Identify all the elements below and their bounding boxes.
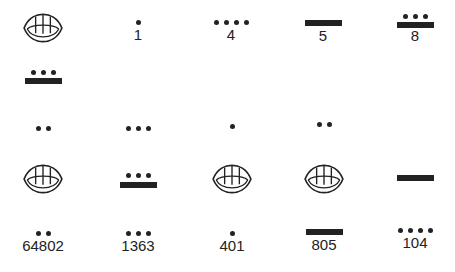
number-104-cell: 104 <box>375 228 455 251</box>
dots-group <box>36 231 51 236</box>
zero-shell-cell <box>192 164 272 194</box>
number-label: 64802 <box>22 238 64 254</box>
dot-icon <box>403 14 408 19</box>
dot-icon <box>214 20 219 25</box>
number-label: 4 <box>227 27 235 43</box>
zero-shell-cell <box>3 13 83 43</box>
number-label: 104 <box>402 235 427 251</box>
dot-icon <box>126 126 131 131</box>
level-two-cell <box>3 126 83 131</box>
dot-icon <box>317 122 322 127</box>
dot-icon <box>46 231 51 236</box>
dots-group <box>230 124 235 129</box>
dot-icon <box>136 20 141 25</box>
shell-zero-icon <box>22 13 64 43</box>
dot-icon <box>126 173 131 178</box>
numeral-eight-cell: 8 <box>375 14 455 44</box>
dot-icon <box>136 126 141 131</box>
dot-icon <box>136 231 141 236</box>
bar-icon <box>397 175 434 181</box>
number-401-cell: 401 <box>192 231 272 254</box>
dots-group <box>136 20 141 25</box>
level-eight-cell <box>3 70 83 84</box>
number-64802-cell: 64802 <box>3 231 83 254</box>
dot-icon <box>244 20 249 25</box>
number-label: 1363 <box>121 238 154 254</box>
dots-group <box>126 231 151 236</box>
dot-icon <box>36 231 41 236</box>
zero-shell-cell <box>3 164 83 194</box>
number-805-cell: 805 <box>284 229 364 253</box>
dot-icon <box>36 126 41 131</box>
dots-group <box>126 173 151 178</box>
dot-icon <box>327 122 332 127</box>
shell-zero-icon <box>22 164 64 194</box>
dot-icon <box>224 20 229 25</box>
dots-group <box>36 126 51 131</box>
dots-group <box>398 228 433 233</box>
dot-icon <box>136 173 141 178</box>
shell-zero-icon <box>211 164 253 194</box>
dot-icon <box>41 70 46 75</box>
dot-icon <box>230 124 235 129</box>
level-three-cell <box>98 126 178 131</box>
bar-icon <box>120 182 157 188</box>
level-one-cell <box>192 124 272 129</box>
number-label: 8 <box>411 28 419 44</box>
dot-icon <box>408 228 413 233</box>
numeral-one-cell: 1 <box>98 20 178 43</box>
dot-icon <box>51 70 56 75</box>
dots-group <box>317 122 332 127</box>
dot-icon <box>398 228 403 233</box>
dot-icon <box>146 231 151 236</box>
dots-group <box>230 231 235 236</box>
dot-icon <box>428 228 433 233</box>
number-label: 1 <box>134 27 142 43</box>
dot-icon <box>31 70 36 75</box>
dots-group <box>126 126 151 131</box>
dots-group <box>31 70 56 75</box>
dots-group <box>214 20 249 25</box>
number-label: 805 <box>311 237 336 253</box>
dots-group <box>403 14 428 19</box>
shell-zero-icon <box>303 164 345 194</box>
dot-icon <box>46 126 51 131</box>
dot-icon <box>230 231 235 236</box>
bar-icon <box>305 20 342 26</box>
dot-icon <box>146 126 151 131</box>
numeral-four-cell: 4 <box>191 20 271 43</box>
bar-icon <box>306 229 343 235</box>
level-five-cell <box>375 175 455 181</box>
dot-icon <box>234 20 239 25</box>
dot-icon <box>413 14 418 19</box>
level-two-cell <box>284 122 364 127</box>
dot-icon <box>423 14 428 19</box>
dot-icon <box>126 231 131 236</box>
number-1363-cell: 1363 <box>98 231 178 254</box>
zero-shell-cell <box>284 164 364 194</box>
number-label: 5 <box>319 28 327 44</box>
number-label: 401 <box>219 238 244 254</box>
level-eight-cell <box>98 173 178 188</box>
dot-icon <box>418 228 423 233</box>
numeral-five-cell: 5 <box>283 20 363 44</box>
dot-icon <box>146 173 151 178</box>
bar-icon <box>25 78 62 84</box>
